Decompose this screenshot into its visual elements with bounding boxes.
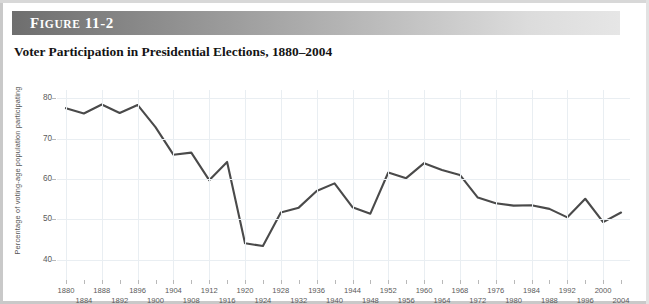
gridline-vertical bbox=[138, 90, 139, 280]
x-axis-tickmark bbox=[156, 280, 157, 284]
x-axis-labels-bottom-row: 1884189219001908191619241932194019481956… bbox=[57, 296, 630, 304]
gridline-vertical bbox=[173, 90, 174, 280]
x-axis-tick-label: 1964 bbox=[427, 296, 457, 304]
x-axis-tick-label: 1924 bbox=[248, 296, 278, 304]
x-axis-tickmark bbox=[102, 280, 103, 284]
x-axis-tickmarks bbox=[57, 280, 630, 285]
figure-title: Voter Participation in Presidential Elec… bbox=[14, 44, 332, 60]
figure-banner-label: FIGURE 11-2 bbox=[30, 15, 114, 32]
x-axis-tickmark bbox=[549, 280, 550, 284]
gridline-vertical bbox=[66, 90, 67, 280]
x-axis-tickmark bbox=[66, 280, 67, 284]
x-axis-tick-label: 1904 bbox=[158, 286, 188, 295]
x-axis-tickmark bbox=[173, 280, 174, 284]
gridline-vertical bbox=[102, 90, 103, 280]
gridline-vertical bbox=[388, 90, 389, 280]
y-axis-tick-label: 80 bbox=[26, 93, 52, 102]
y-axis-tick-label: 40 bbox=[26, 255, 52, 264]
x-axis-tickmark bbox=[263, 280, 264, 284]
x-axis-tickmark bbox=[460, 280, 461, 284]
gridline-vertical bbox=[353, 90, 354, 280]
x-axis-tickmark bbox=[370, 280, 371, 284]
x-axis-tick-label: 1980 bbox=[499, 296, 529, 304]
x-axis-tick-label: 1988 bbox=[534, 296, 564, 304]
x-axis-tick-label: 1984 bbox=[517, 286, 547, 295]
x-axis-tickmark bbox=[603, 280, 604, 284]
x-axis-tick-label: 1900 bbox=[141, 296, 171, 304]
x-axis-tick-label: 1968 bbox=[445, 286, 475, 295]
x-axis-tick-label: 1896 bbox=[123, 286, 153, 295]
x-axis-tick-label: 1956 bbox=[391, 296, 421, 304]
y-axis-tick-label: 50 bbox=[26, 214, 52, 223]
x-axis-tickmark bbox=[281, 280, 282, 284]
x-axis-tick-label: 1932 bbox=[284, 296, 314, 304]
y-axis-tickmark bbox=[52, 260, 56, 261]
gridline-vertical bbox=[209, 90, 210, 280]
x-axis-tickmark bbox=[585, 280, 586, 284]
gridline-vertical bbox=[567, 90, 568, 280]
gridline-vertical bbox=[532, 90, 533, 280]
x-axis-tickmark bbox=[478, 280, 479, 284]
plot-area bbox=[57, 90, 630, 280]
x-axis-tick-label: 2000 bbox=[588, 286, 618, 295]
gridline-vertical bbox=[424, 90, 425, 280]
x-axis-tick-label: 1884 bbox=[69, 296, 99, 304]
x-axis-tick-label: 1976 bbox=[481, 286, 511, 295]
x-axis-tickmark bbox=[532, 280, 533, 284]
card-border-top bbox=[0, 0, 649, 3]
x-axis-tickmark bbox=[84, 280, 85, 284]
x-axis-tickmark bbox=[317, 280, 318, 284]
gridline-vertical bbox=[496, 90, 497, 280]
x-axis-tickmark bbox=[209, 280, 210, 284]
x-axis-tick-label: 1936 bbox=[302, 286, 332, 295]
x-axis-tickmark bbox=[442, 280, 443, 284]
figure-card: FIGURE 11-2 Voter Participation in Presi… bbox=[0, 0, 649, 304]
x-axis-tickmark bbox=[335, 280, 336, 284]
x-axis-tickmark bbox=[388, 280, 389, 284]
x-axis-tickmark bbox=[406, 280, 407, 284]
y-axis-tickmark bbox=[52, 139, 56, 140]
x-axis-tick-label: 2004 bbox=[606, 296, 636, 304]
gridline-horizontal bbox=[57, 219, 630, 220]
x-axis-tick-label: 1916 bbox=[212, 296, 242, 304]
y-axis-tickmark bbox=[52, 219, 56, 220]
x-axis-tickmark bbox=[138, 280, 139, 284]
x-axis-tick-label: 1920 bbox=[230, 286, 260, 295]
y-axis-tickmark bbox=[52, 179, 56, 180]
x-axis-tick-label: 1928 bbox=[266, 286, 296, 295]
gridline-horizontal bbox=[57, 179, 630, 180]
x-axis-tick-label: 1912 bbox=[194, 286, 224, 295]
x-axis-tick-label: 1940 bbox=[320, 296, 350, 304]
y-axis-tick-label: 70 bbox=[26, 134, 52, 143]
x-axis-tickmark bbox=[227, 280, 228, 284]
x-axis-tick-label: 1996 bbox=[570, 296, 600, 304]
x-axis-tickmark bbox=[191, 280, 192, 284]
gridline-horizontal bbox=[57, 98, 630, 99]
y-axis-title: Percentage of voting-age population part… bbox=[13, 76, 22, 266]
y-axis-tick-label: 60 bbox=[26, 174, 52, 183]
x-axis-tickmark bbox=[353, 280, 354, 284]
x-axis-tickmark bbox=[245, 280, 246, 284]
x-axis-tick-label: 1948 bbox=[355, 296, 385, 304]
x-axis-tickmark bbox=[299, 280, 300, 284]
x-axis-tick-label: 1892 bbox=[105, 296, 135, 304]
x-axis-tickmark bbox=[621, 280, 622, 284]
line-series-voter-turnout bbox=[57, 90, 630, 280]
gridline-vertical bbox=[281, 90, 282, 280]
gridline-vertical bbox=[603, 90, 604, 280]
x-axis-tick-label: 1960 bbox=[409, 286, 439, 295]
x-axis-tick-label: 1992 bbox=[552, 286, 582, 295]
x-axis-tick-label: 1972 bbox=[463, 296, 493, 304]
x-axis-tick-label: 1952 bbox=[373, 286, 403, 295]
gridline-horizontal bbox=[57, 260, 630, 261]
figure-banner-number: 11-2 bbox=[85, 15, 114, 31]
figure-banner-word: IGURE bbox=[40, 18, 81, 30]
gridline-vertical bbox=[317, 90, 318, 280]
y-axis-tick-labels: 4050607080 bbox=[22, 90, 52, 280]
y-axis-tickmark bbox=[52, 98, 56, 99]
chart-area: Percentage of voting-age population part… bbox=[0, 70, 649, 302]
x-axis-tickmark bbox=[496, 280, 497, 284]
x-axis-tick-label: 1908 bbox=[176, 296, 206, 304]
x-axis-tickmark bbox=[514, 280, 515, 284]
x-axis-tickmark bbox=[120, 280, 121, 284]
